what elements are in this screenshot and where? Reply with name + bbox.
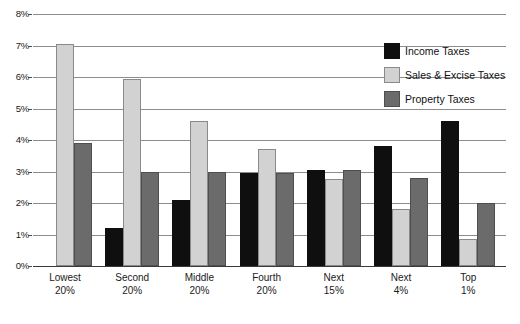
legend-item: Sales & Excise Taxes: [384, 66, 516, 86]
bar-sales-excise-taxes-top-1-: [459, 239, 477, 266]
bar-sales-excise-taxes-next-4-: [392, 209, 410, 266]
y-tick-mark: [28, 46, 32, 47]
y-tick-mark: [28, 266, 32, 267]
y-tick-label: 5%: [0, 104, 29, 114]
legend-item: Property Taxes: [384, 90, 516, 110]
bar-income-taxes-top-1-: [441, 121, 459, 266]
y-tick-label: 7%: [0, 41, 29, 51]
y-tick-label: 0%: [0, 261, 29, 271]
gridline-8%: [33, 14, 506, 15]
legend-swatch-property: [384, 91, 400, 107]
x-tick-label-line1: Next: [391, 272, 412, 283]
bar-sales-excise-taxes-lowest-20-: [56, 44, 74, 266]
bar-income-taxes-fourth-20-: [240, 173, 258, 266]
bar-property-taxes-top-1-: [477, 203, 495, 266]
x-tick-label-line1: Top: [460, 272, 476, 283]
y-tick-label: 2%: [0, 198, 29, 208]
x-tick-label-line1: Second: [115, 272, 149, 283]
y-tick-label: 1%: [0, 230, 29, 240]
x-tick-label-line1: Lowest: [49, 272, 81, 283]
y-tick-mark: [28, 235, 32, 236]
bar-income-taxes-next-4-: [374, 146, 392, 266]
y-tick-mark: [28, 109, 32, 110]
y-tick-label: 4%: [0, 135, 29, 145]
legend-label: Income Taxes: [405, 45, 470, 57]
x-tick-label-line1: Fourth: [252, 272, 281, 283]
y-tick-mark: [28, 77, 32, 78]
bar-property-taxes-next-4-: [410, 178, 428, 266]
y-tick-mark: [28, 203, 32, 204]
legend-label: Property Taxes: [405, 93, 475, 105]
gridline-0%: [33, 266, 506, 267]
bar-property-taxes-next-15-: [343, 170, 361, 266]
x-tick-label-line1: Middle: [185, 272, 214, 283]
legend-label: Sales & Excise Taxes: [405, 69, 505, 81]
y-tick-label: 8%: [0, 9, 29, 19]
y-tick-mark: [28, 14, 32, 15]
y-tick-label: 3%: [0, 167, 29, 177]
y-tick-mark: [28, 172, 32, 173]
bar-income-taxes-next-15-: [307, 170, 325, 266]
bar-sales-excise-taxes-next-15-: [325, 179, 343, 266]
y-tick-label: 6%: [0, 72, 29, 82]
bar-sales-excise-taxes-second-20-: [123, 79, 141, 266]
bar-income-taxes-second-20-: [105, 228, 123, 266]
bar-income-taxes-middle-20-: [172, 200, 190, 266]
y-tick-mark: [28, 140, 32, 141]
bar-property-taxes-lowest-20-: [74, 143, 92, 266]
x-tick-label-line1: Next: [324, 272, 345, 283]
x-tick-label: Top1%: [423, 272, 513, 297]
legend-swatch-income: [384, 43, 400, 59]
bar-chart: 0%1%2%3%4%5%6%7%8% Lowest20%Second20%Mid…: [0, 0, 520, 324]
bar-sales-excise-taxes-middle-20-: [190, 121, 208, 266]
bar-sales-excise-taxes-fourth-20-: [258, 149, 276, 266]
legend-item: Income Taxes: [384, 42, 516, 62]
bar-property-taxes-middle-20-: [208, 172, 226, 267]
chart-legend: Income TaxesSales & Excise TaxesProperty…: [384, 42, 516, 114]
gridline-4%: [33, 140, 506, 141]
x-tick-label-line2: 1%: [423, 285, 513, 298]
bar-property-taxes-fourth-20-: [276, 173, 294, 266]
bar-property-taxes-second-20-: [141, 172, 159, 267]
legend-swatch-sales: [384, 67, 400, 83]
